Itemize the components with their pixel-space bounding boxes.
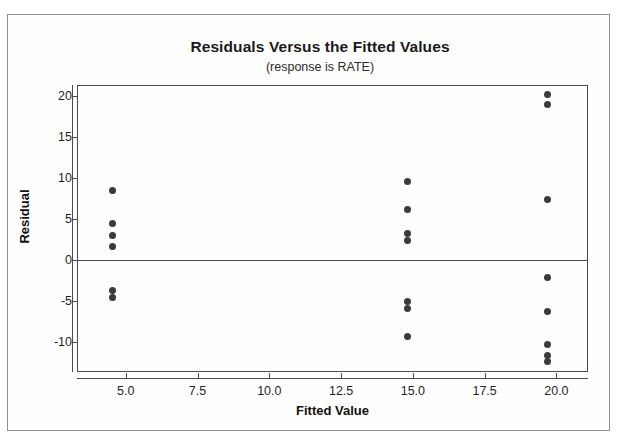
y-tick-label: 10 <box>32 171 72 185</box>
data-point <box>404 298 411 305</box>
x-axis-title: Fitted Value <box>77 403 588 418</box>
y-tick-label: 0 <box>32 253 72 267</box>
data-point <box>109 232 116 239</box>
data-point <box>404 178 411 185</box>
x-tick-mark <box>341 373 342 378</box>
x-tick-label: 12.5 <box>311 384 371 398</box>
data-point <box>544 341 551 348</box>
data-point <box>404 237 411 244</box>
data-point <box>109 287 116 294</box>
y-tick-label: -10 <box>32 335 72 349</box>
data-point <box>544 274 551 281</box>
data-point <box>544 196 551 203</box>
data-point <box>109 243 116 250</box>
x-tick-mark <box>413 373 414 378</box>
data-point <box>544 101 551 108</box>
x-tick-label: 15.0 <box>383 384 443 398</box>
data-point <box>544 308 551 315</box>
x-axis-line <box>77 378 588 379</box>
y-tick-label: -5 <box>32 294 72 308</box>
data-point <box>109 220 116 227</box>
x-tick-label: 10.0 <box>239 384 299 398</box>
data-point <box>404 305 411 312</box>
plot-area <box>77 85 588 372</box>
data-point <box>404 333 411 340</box>
x-tick-mark <box>198 373 199 378</box>
chart-subtitle: (response is RATE) <box>60 60 580 74</box>
data-point <box>109 294 116 301</box>
y-axis-tick-labels: 20151050-5-10 <box>27 85 72 372</box>
y-tick-label: 5 <box>32 212 72 226</box>
x-axis-tick-marks <box>77 373 588 378</box>
x-tick-mark <box>269 373 270 378</box>
x-tick-label: 5.0 <box>96 384 156 398</box>
y-tick-label: 20 <box>32 89 72 103</box>
x-tick-label: 17.5 <box>455 384 515 398</box>
data-point <box>404 206 411 213</box>
chart-title: Residuals Versus the Fitted Values <box>60 38 580 56</box>
x-tick-label: 7.5 <box>168 384 228 398</box>
data-point <box>544 358 551 365</box>
x-tick-mark <box>556 373 557 378</box>
x-tick-label: 20.0 <box>526 384 586 398</box>
data-point <box>544 91 551 98</box>
x-axis-tick-labels: 5.07.510.012.515.017.520.0 <box>77 384 588 402</box>
x-tick-mark <box>485 373 486 378</box>
data-point <box>109 187 116 194</box>
y-tick-label: 15 <box>32 130 72 144</box>
x-tick-mark <box>126 373 127 378</box>
residual-plot-figure: Residuals Versus the Fitted Values (resp… <box>0 0 632 448</box>
zero-reference-line <box>77 260 588 261</box>
